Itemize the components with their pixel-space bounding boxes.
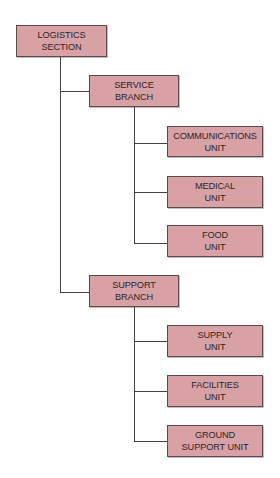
connector-support-trunk — [134, 307, 135, 442]
connector-support-to-ground-support — [134, 441, 167, 442]
node-label-line2: BRANCH — [115, 291, 153, 303]
connector-support-to-facilities — [134, 391, 167, 392]
connector-root-trunk — [60, 57, 61, 293]
node-communications-unit: COMMUNICATIONS UNIT — [167, 126, 263, 157]
node-medical-unit: MEDICAL UNIT — [167, 176, 263, 208]
node-label-line1: SUPPLY — [198, 329, 233, 341]
node-label-line1: FACILITIES — [191, 379, 239, 391]
node-label-line2: UNIT — [204, 391, 225, 403]
connector-service-to-communications — [134, 143, 167, 144]
node-food-unit: FOOD UNIT — [167, 225, 263, 257]
node-label-line2: SUPPORT UNIT — [182, 441, 249, 453]
node-label-line1: MEDICAL — [195, 180, 235, 192]
node-facilities-unit: FACILITIES UNIT — [167, 375, 263, 407]
connector-root-to-support — [60, 292, 89, 293]
node-label-line1: FOOD — [202, 229, 228, 241]
connector-support-to-supply — [134, 341, 167, 342]
node-label-line2: UNIT — [204, 241, 225, 253]
connector-service-to-food — [134, 243, 167, 244]
connector-service-trunk — [134, 107, 135, 244]
node-label-line1: SERVICE — [114, 79, 153, 91]
org-chart: LOGISTICS SECTION SERVICE BRANCH COMMUNI… — [0, 0, 280, 478]
node-label-line1: SUPPORT — [112, 279, 156, 291]
node-support-branch: SUPPORT BRANCH — [89, 275, 179, 307]
node-label-line2: UNIT — [204, 192, 225, 204]
node-label-line2: UNIT — [204, 142, 225, 154]
node-ground-support-unit: GROUND SUPPORT UNIT — [167, 425, 263, 457]
node-label-line2: UNIT — [204, 341, 225, 353]
connector-root-to-service — [60, 91, 89, 92]
node-supply-unit: SUPPLY UNIT — [167, 325, 263, 357]
node-logistics-section: LOGISTICS SECTION — [16, 25, 107, 57]
node-label-line1: GROUND — [195, 429, 235, 441]
node-label-line2: BRANCH — [115, 91, 153, 103]
node-service-branch: SERVICE BRANCH — [89, 75, 179, 107]
connector-service-to-medical — [134, 192, 167, 193]
node-label-line1: COMMUNICATIONS — [173, 130, 257, 142]
node-label-line2: SECTION — [41, 41, 81, 53]
node-label-line1: LOGISTICS — [37, 29, 85, 41]
